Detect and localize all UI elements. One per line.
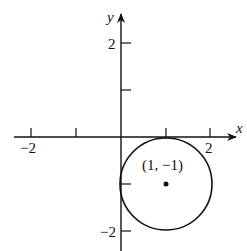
- y-axis-label: y: [105, 9, 114, 25]
- coordinate-diagram: x y −2 2 2 −2 (1, −1): [0, 0, 247, 251]
- center-point: [164, 182, 169, 187]
- x-axis-label: x: [235, 120, 243, 136]
- x-tick-label-2: 2: [205, 140, 213, 156]
- y-tick-label-2: 2: [108, 36, 116, 52]
- y-tick-label-neg2: −2: [100, 224, 116, 240]
- x-tick-label-neg2: −2: [20, 140, 36, 156]
- center-label: (1, −1): [142, 157, 183, 174]
